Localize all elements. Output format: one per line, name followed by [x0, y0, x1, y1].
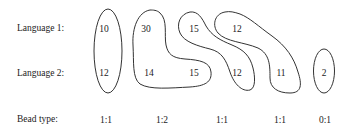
bead-1-language-1-value: 10 — [99, 24, 109, 34]
bead-4-type: 1:1 — [274, 115, 286, 125]
bead-2-language-1-value: 30 — [141, 24, 151, 34]
language-2-label: Language 2: — [17, 68, 64, 78]
bead-1-outline — [94, 9, 122, 93]
bead-5-type: 0:1 — [319, 115, 331, 125]
bead-1-language-2-value: 12 — [99, 68, 109, 78]
bead-3-language-2-value: 12 — [232, 68, 242, 78]
bead-2-language-2-value-a: 14 — [144, 68, 154, 78]
bead-4-outline — [215, 12, 301, 93]
bead-1-type: 1:1 — [100, 115, 112, 125]
bead-type-label: Bead type: — [17, 114, 58, 124]
bead-4-language-1-value: 12 — [232, 24, 242, 34]
bead-3-type: 1:1 — [216, 115, 228, 125]
language-1-label: Language 1: — [17, 23, 64, 33]
bead-2-type: 1:2 — [156, 115, 168, 125]
bead-5-language-2-value: 2 — [322, 68, 327, 78]
bead-4-language-2-value: 11 — [276, 68, 285, 78]
bead-3-language-1-value: 15 — [189, 24, 199, 34]
bead-2-language-2-value-b: 15 — [189, 68, 199, 78]
